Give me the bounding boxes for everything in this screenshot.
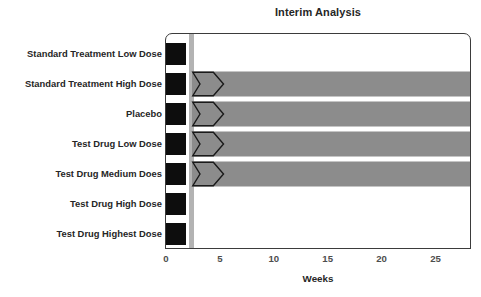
- chart-canvas: Interim Analysis Standard Treatment Low …: [0, 0, 481, 297]
- enrollment-block: [166, 133, 186, 155]
- x-tick-label: 15: [322, 253, 333, 264]
- category-label: Test Drug Low Dose: [4, 138, 162, 149]
- x-axis-line: [165, 248, 471, 249]
- x-tick-label: 0: [163, 253, 168, 264]
- x-axis-title: Weeks: [165, 273, 471, 284]
- category-label: Test Drug Medium Does: [4, 168, 162, 179]
- treatment-duration-bar: [192, 162, 471, 187]
- enrollment-block: [166, 193, 186, 215]
- treatment-duration-bar: [192, 72, 471, 97]
- plot-area: [165, 33, 471, 249]
- dose-escalation-chevron: [192, 132, 224, 157]
- enrollment-block: [166, 43, 186, 65]
- category-label: Placebo: [4, 108, 162, 119]
- enrollment-block: [166, 73, 186, 95]
- x-tick-label: 20: [376, 253, 387, 264]
- page-title: Interim Analysis: [165, 6, 471, 18]
- x-tick-label: 5: [217, 253, 222, 264]
- x-tick-label: 25: [430, 253, 441, 264]
- dose-escalation-chevron: [192, 72, 224, 97]
- dose-escalation-chevron: [192, 102, 224, 127]
- category-label: Test Drug High Dose: [4, 198, 162, 209]
- x-tick-label: 10: [268, 253, 279, 264]
- category-label: Standard Treatment High Dose: [4, 78, 162, 89]
- dose-escalation-chevron: [192, 162, 224, 187]
- category-label: Test Drug Highest Dose: [4, 228, 162, 239]
- enrollment-block: [166, 103, 186, 125]
- enrollment-block: [166, 223, 186, 245]
- treatment-duration-bar: [192, 102, 471, 127]
- enrollment-block: [166, 163, 186, 185]
- category-label: Standard Treatment Low Dose: [4, 48, 162, 59]
- treatment-duration-bar: [192, 132, 471, 157]
